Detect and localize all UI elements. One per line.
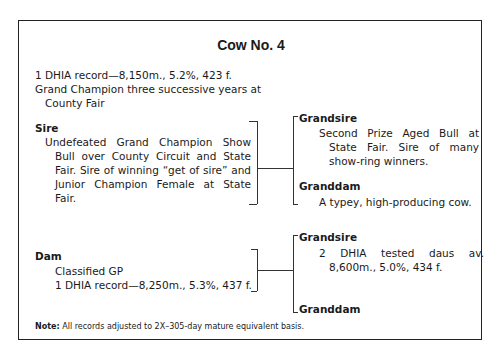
dam-record: 1 DHIA record—8,250m., 5.3%, 437 f. (55, 278, 252, 292)
cow-award-line1: Grand Champion three successive years at (35, 82, 261, 96)
sire-grandsire-label: Grandsire (299, 111, 357, 125)
sire-bracket-top (249, 121, 257, 122)
cow-record: 1 DHIA record—8,150m., 5.2%, 423 f. (35, 68, 232, 82)
sire-granddam-description: A typey, high-producing cow. (319, 195, 472, 209)
page-title: Cow No. 4 (19, 37, 483, 53)
sire-granddam-label: Granddam (299, 179, 360, 193)
footnote-text: All records adjusted to 2X–305-day matur… (60, 322, 304, 331)
sire-label: Sire (35, 121, 58, 135)
sire-parents-bracket-top (293, 116, 298, 117)
cow-award-line2: County Fair (45, 96, 104, 110)
dam-connector (257, 270, 293, 271)
dam-classification: Classified GP (55, 264, 123, 278)
dam-parents-bracket-bottom (293, 312, 298, 313)
footnote: Note: All records adjusted to 2X–305-day… (35, 322, 304, 331)
dam-label: Dam (35, 249, 62, 263)
dam-grandsire-description: 2 DHIA tested daus av. 8,600m., 5.0%, 43… (329, 246, 484, 274)
dam-parents-bracket (293, 235, 294, 312)
sire-bracket-bottom (249, 204, 257, 205)
sire-bracket (257, 121, 258, 204)
dam-bracket-bottom (251, 291, 257, 292)
sire-parents-bracket-bottom (293, 204, 298, 205)
sire-parents-bracket (293, 116, 294, 204)
sire-description: Undefeated Grand Champion Show Bull over… (55, 135, 251, 205)
dam-grandsire-label: Grandsire (299, 230, 357, 244)
dam-granddam-label: Granddam (299, 302, 360, 316)
sire-grandsire-description: Second Prize Aged Bull at State Fair. Si… (329, 126, 479, 168)
dam-parents-bracket-top (293, 235, 298, 236)
pedigree-box: Cow No. 4 1 DHIA record—8,150m., 5.2%, 4… (18, 20, 482, 340)
footnote-label: Note: (35, 322, 60, 331)
sire-connector (257, 168, 293, 169)
